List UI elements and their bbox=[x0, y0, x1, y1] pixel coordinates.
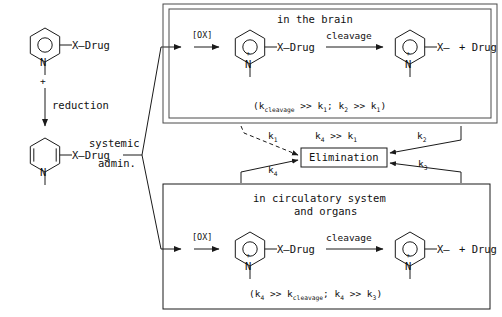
circulatory-reactant-structure bbox=[235, 232, 277, 279]
diagram-canvas: X—Drug + N reduction X—Drug N systemic a… bbox=[0, 0, 502, 317]
brain-kinetics-mid1: >> k bbox=[295, 100, 324, 111]
label-k1: k1 bbox=[268, 131, 278, 142]
circ-kinetics-mid1: >> k bbox=[264, 288, 293, 299]
circulatory-cleavage-label: cleavage bbox=[326, 233, 372, 244]
circulatory-oxidation-label: [OX] bbox=[192, 233, 212, 243]
circulatory-reactant-substituent: X—Drug bbox=[277, 243, 315, 255]
brain-reactant-structure bbox=[235, 30, 277, 77]
circulatory-kinetics-note: (k4 >> kcleavage; k4 >> k3) bbox=[249, 289, 382, 300]
circulatory-product-structure bbox=[395, 232, 437, 279]
brain-kinetics-open: (k bbox=[253, 100, 264, 111]
brain-reactant-charge: + bbox=[246, 50, 250, 58]
brain-kinetics-mid3: >> k bbox=[348, 100, 377, 111]
brain-product-structure bbox=[395, 30, 437, 77]
circulatory-reactant-nitrogen: N bbox=[245, 260, 251, 272]
circ-kinetics-open: (k bbox=[249, 288, 260, 299]
circulatory-reactant-charge: + bbox=[246, 252, 250, 260]
elimination-comparison-label: k4 >> k1 bbox=[315, 131, 357, 142]
circulatory-box-title-line1: in circulatory system bbox=[253, 192, 386, 204]
circulatory-product-charge: + bbox=[406, 252, 410, 260]
circulatory-product-substituent: X— bbox=[437, 243, 450, 255]
circulatory-product-released: + Drug bbox=[459, 243, 497, 255]
pyridinium-nitrogen-label: N bbox=[40, 56, 46, 68]
circ-kinetics-mid2: ; k bbox=[323, 288, 340, 299]
systemic-admin-line2: admin. bbox=[98, 157, 136, 169]
dihydro-nitrogen-label: N bbox=[40, 166, 46, 178]
structure-pyridinium-start bbox=[30, 28, 72, 75]
label-k3: k3 bbox=[418, 159, 428, 170]
label-k2-sub: 2 bbox=[423, 136, 427, 143]
reduction-label: reduction bbox=[52, 99, 109, 111]
circulatory-product-nitrogen: N bbox=[405, 260, 411, 272]
fork-to-circulatory bbox=[142, 155, 181, 249]
brain-kinetics-note: (kcleavage >> k1; k2 >> k1) bbox=[253, 101, 386, 112]
brain-reactant-substituent: X—Drug bbox=[277, 41, 315, 53]
circulatory-box-title-line2: and organs bbox=[294, 205, 357, 217]
comparison-mid: >> k bbox=[325, 130, 354, 141]
label-k2: k2 bbox=[417, 131, 427, 142]
label-k4-sub: 4 bbox=[274, 170, 278, 177]
structure-dihydropyridine-start bbox=[30, 138, 72, 185]
brain-product-nitrogen: N bbox=[405, 58, 411, 70]
circ-kinetics-close: ) bbox=[376, 288, 382, 299]
brain-cleavage-label: cleavage bbox=[326, 31, 372, 42]
label-k3-sub: 3 bbox=[424, 164, 428, 171]
brain-box-title: in the brain bbox=[277, 13, 353, 25]
brain-product-released: + Drug bbox=[459, 41, 497, 53]
systemic-admin-line1: systemic bbox=[89, 137, 140, 149]
structure-start-substituent-label: X—Drug bbox=[72, 39, 110, 51]
label-k1-sub: 1 bbox=[274, 136, 278, 143]
elimination-label: Elimination bbox=[309, 151, 379, 163]
brain-product-charge: + bbox=[406, 50, 410, 58]
circ-kinetics-mid3: >> k bbox=[344, 288, 373, 299]
brain-oxidation-label: [OX] bbox=[192, 31, 212, 41]
brain-kinetics-mid2: ; k bbox=[327, 100, 344, 111]
fork-to-brain bbox=[142, 47, 181, 155]
comparison-sub-b: 1 bbox=[353, 136, 357, 143]
brain-product-substituent: X— bbox=[437, 41, 450, 53]
brain-reactant-nitrogen: N bbox=[245, 58, 251, 70]
circ-kinetics-sub2: cleavage bbox=[293, 294, 323, 301]
brain-kinetics-sub1: cleavage bbox=[264, 106, 294, 113]
brain-kinetics-close: ) bbox=[380, 100, 386, 111]
label-k4: k4 bbox=[268, 165, 278, 176]
pyridinium-charge-label: + bbox=[40, 76, 46, 87]
